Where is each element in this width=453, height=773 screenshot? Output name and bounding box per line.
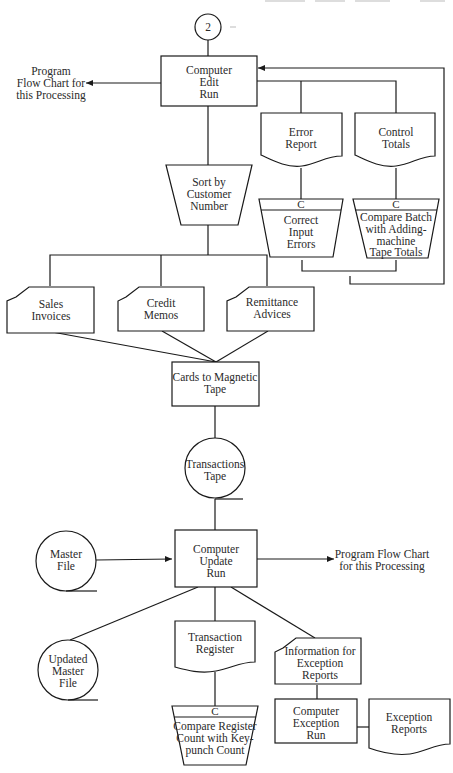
tape-label: File <box>57 560 75 572</box>
tape-label: Master <box>52 665 84 677</box>
tape-label: Master <box>50 548 82 560</box>
document-error-report: Error Report <box>261 113 342 166</box>
document-label: Reports <box>391 723 427 736</box>
tape-label: File <box>59 677 77 689</box>
document-label: Register <box>196 643 234 656</box>
flowchart-canvas: 2 Computer Edit Run Program Flow Chart f… <box>0 0 453 773</box>
card-label: Remittance <box>246 296 298 308</box>
manual-correct-input-errors: C Correct Input Errors <box>259 198 343 257</box>
card-exception-information: Information for Exception Reports <box>275 638 361 684</box>
card-label: Memos <box>144 309 179 321</box>
sort-label: Number <box>190 200 228 212</box>
manual-label: punch Count <box>185 744 245 757</box>
note-program-flow-chart-edit: Program Flow Chart for this Processing <box>16 65 86 102</box>
document-label: Error <box>289 126 313 138</box>
card-label: Information for <box>284 645 355 657</box>
manual-label: Tape Totals <box>370 246 423 259</box>
process-label: Run <box>306 729 325 741</box>
card-label: Invoices <box>32 310 71 322</box>
card-label: Sales <box>39 298 64 310</box>
clerical-badge: C <box>211 705 218 717</box>
process-cards-to-tape: Cards to Magnetic Tape <box>172 362 259 406</box>
connector-label: 2 <box>205 21 211 33</box>
note-label: for this Processing <box>339 560 425 573</box>
document-transaction-register: Transaction Register <box>175 621 255 672</box>
process-computer-update-run: Computer Update Run <box>175 530 257 587</box>
document-control-totals: Control Totals <box>355 113 435 166</box>
sort-label: Customer <box>187 188 232 200</box>
process-label: Tape <box>204 383 226 396</box>
offline-sort-by-customer: Sort by Customer Number <box>166 165 252 225</box>
document-label: Totals <box>382 138 410 150</box>
document-label: Control <box>378 126 413 138</box>
process-label: Edit <box>199 76 219 88</box>
card-label: Credit <box>147 297 177 309</box>
off-page-connector: 2 <box>195 14 221 40</box>
process-computer-edit-run: Computer Edit Run <box>161 56 257 106</box>
card-label: Advices <box>253 308 291 320</box>
manual-compare-register: C Compare Register Count with Key- punch… <box>172 705 258 765</box>
note-label: Flow Chart for <box>17 77 86 89</box>
process-label: Run <box>199 88 218 100</box>
tape-transactions: Transactions Tape <box>185 438 245 499</box>
clerical-badge: C <box>297 198 304 210</box>
document-exception-reports: Exception Reports <box>369 699 450 755</box>
manual-label: Errors <box>287 238 316 250</box>
document-label: Transaction <box>188 631 242 643</box>
clerical-badge: C <box>392 198 399 210</box>
card-sales-invoices: Sales Invoices <box>7 287 94 333</box>
card-credit-memos: Credit Memos <box>118 287 204 331</box>
note-label: this Processing <box>16 89 86 102</box>
note-program-flow-chart-update: Program Flow Chart for this Processing <box>335 548 430 573</box>
tape-label: Tape <box>204 470 226 483</box>
card-label: Reports <box>302 669 338 682</box>
header-fragment <box>265 0 445 2</box>
process-label: Run <box>206 567 225 579</box>
tape-updated-master-file: Updated Master File <box>38 640 98 700</box>
card-remittance-advices: Remittance Advices <box>227 287 314 331</box>
process-computer-exception-run: Computer Exception Run <box>275 699 357 743</box>
document-label: Report <box>285 138 317 151</box>
manual-label: Correct <box>284 214 319 226</box>
tape-label: Transactions <box>186 458 245 470</box>
manual-compare-batch: C Compare Batch with Adding- machine Tap… <box>353 198 439 259</box>
tape-master-file: Master File <box>36 531 97 591</box>
